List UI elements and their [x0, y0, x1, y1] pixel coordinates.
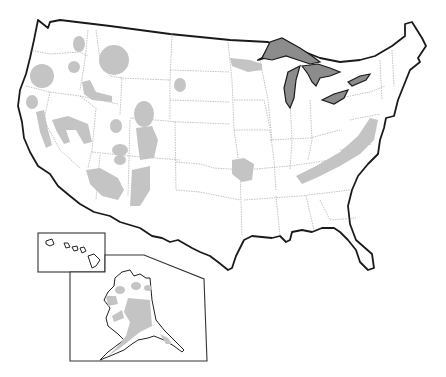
region-wyoming: [114, 155, 126, 165]
us-map: [0, 0, 446, 377]
region-black-hills: [174, 78, 186, 92]
region-northern-rockies: [99, 45, 129, 75]
region-uinta: [110, 119, 122, 133]
region-oregon-cascades: [30, 64, 54, 88]
region-cascades-wa: [73, 36, 85, 52]
region-blue-mtns: [68, 61, 80, 73]
region-san-juan: [112, 144, 128, 156]
hawaii-inset: [38, 233, 105, 272]
region-northern-ca: [26, 95, 38, 109]
region-wasatch: [134, 101, 154, 127]
